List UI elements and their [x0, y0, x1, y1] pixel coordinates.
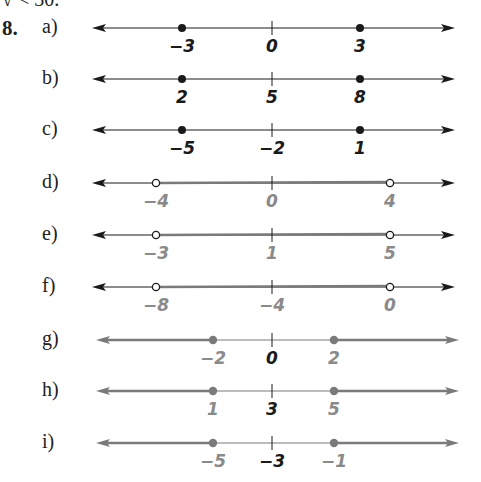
tick-label: −4 — [143, 191, 169, 211]
closed-point — [209, 336, 217, 344]
number-line-b: 258 — [92, 72, 455, 107]
open-point — [152, 283, 159, 290]
open-point — [152, 231, 159, 238]
number-line-a: −303 — [92, 21, 455, 56]
closed-point — [178, 24, 186, 32]
closed-point — [356, 126, 364, 134]
closed-point — [178, 75, 186, 83]
number-line-h: 135 — [96, 384, 459, 419]
tick-label: −3 — [169, 36, 195, 56]
tick-label: −1 — [321, 451, 347, 471]
solution-segment — [156, 182, 390, 183]
tick-label: 2 — [176, 87, 188, 107]
number-line-d: −404 — [92, 176, 455, 211]
tick-label: 5 — [266, 87, 278, 107]
solution-segment — [156, 286, 390, 287]
number-line-g: −202 — [96, 333, 459, 368]
tick-label: 0 — [266, 36, 278, 56]
closed-point — [330, 439, 338, 447]
closed-point — [209, 439, 217, 447]
tick-label: 5 — [384, 243, 396, 263]
tick-label: 5 — [328, 399, 340, 419]
solution-segment — [156, 234, 390, 235]
tick-label: 1 — [354, 138, 366, 158]
closed-point — [330, 336, 338, 344]
closed-point — [178, 126, 186, 134]
tick-label: −5 — [200, 451, 226, 471]
tick-label: 4 — [383, 191, 396, 211]
number-line-i: −5−3−1 — [96, 436, 459, 471]
closed-point — [330, 387, 338, 395]
tick-label: 1 — [207, 399, 219, 419]
tick-label: −5 — [169, 138, 195, 158]
open-point — [386, 231, 393, 238]
number-line-c: −5−21 — [92, 123, 455, 158]
tick-label: 1 — [266, 243, 278, 263]
number-line-f: −8−40 — [92, 280, 455, 315]
tick-label: 8 — [354, 87, 366, 107]
closed-point — [356, 75, 364, 83]
open-point — [386, 283, 393, 290]
tick-label: 3 — [354, 36, 366, 56]
number-line-e: −315 — [92, 228, 455, 263]
open-point — [386, 179, 393, 186]
tick-label: 3 — [266, 399, 278, 419]
number-lines: −303258−5−21−404−315−8−40−202135−5−3−1 — [0, 0, 481, 482]
tick-label: −2 — [259, 138, 285, 158]
closed-point — [209, 387, 217, 395]
tick-label: 0 — [384, 295, 396, 315]
closed-point — [356, 24, 364, 32]
tick-label: 0 — [266, 348, 278, 368]
tick-label: −4 — [259, 295, 285, 315]
tick-label: 0 — [266, 191, 278, 211]
tick-label: 2 — [328, 348, 340, 368]
open-point — [152, 179, 159, 186]
tick-label: −2 — [200, 348, 226, 368]
tick-label: −3 — [259, 451, 285, 471]
tick-label: −3 — [143, 243, 169, 263]
tick-label: −8 — [143, 295, 169, 315]
